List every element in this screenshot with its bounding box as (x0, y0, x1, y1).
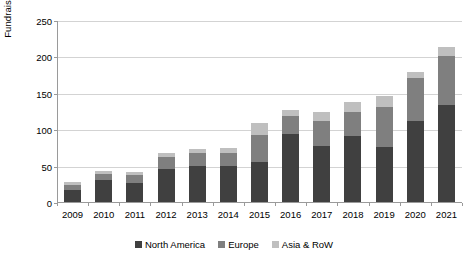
plot-area (57, 21, 462, 203)
plot-frame (57, 21, 462, 203)
x-tick-mark-2018 (337, 203, 338, 206)
x-tick-mark-2010 (88, 203, 89, 206)
legend-label: Asia & RoW (282, 239, 333, 250)
legend-swatch-icon (135, 241, 142, 248)
y-tick-label-50: 50 (18, 162, 52, 173)
x-tick-label-2021: 2021 (429, 209, 463, 220)
legend-swatch-icon (272, 241, 279, 248)
x-tick-mark-2015 (244, 203, 245, 206)
y-tick-label-200: 200 (18, 52, 52, 63)
x-tick-label-2014: 2014 (211, 209, 245, 220)
x-tick-label-2016: 2016 (274, 209, 308, 220)
x-tick-mark-2017 (306, 203, 307, 206)
x-tick-mark-2020 (400, 203, 401, 206)
x-tick-mark-2012 (150, 203, 151, 206)
x-tick-label-2013: 2013 (180, 209, 214, 220)
legend-label: North America (145, 239, 205, 250)
x-tick-label-2009: 2009 (56, 209, 90, 220)
x-tick-label-2012: 2012 (149, 209, 183, 220)
x-tick-mark-end (462, 203, 463, 206)
x-tick-label-2017: 2017 (305, 209, 339, 220)
x-tick-mark-2011 (119, 203, 120, 206)
legend-item-2[interactable]: Asia & RoW (272, 239, 333, 250)
chart-legend: North AmericaEuropeAsia & RoW (0, 239, 468, 250)
x-tick-mark-2013 (182, 203, 183, 206)
x-tick-mark-2021 (431, 203, 432, 206)
x-tick-label-2011: 2011 (118, 209, 152, 220)
x-tick-mark-2019 (369, 203, 370, 206)
x-tick-label-2020: 2020 (398, 209, 432, 220)
legend-label: Europe (228, 239, 259, 250)
chart-container: Fundraising in $B 050100150200250 200920… (0, 0, 468, 270)
x-tick-label-2010: 2010 (87, 209, 121, 220)
y-tick-label-100: 100 (18, 125, 52, 136)
x-tick-mark-2014 (213, 203, 214, 206)
y-tick-label-250: 250 (18, 16, 52, 27)
legend-item-1[interactable]: Europe (218, 239, 259, 250)
legend-swatch-icon (218, 241, 225, 248)
x-tick-label-2019: 2019 (367, 209, 401, 220)
legend-item-0[interactable]: North America (135, 239, 205, 250)
x-tick-mark-2016 (275, 203, 276, 206)
x-tick-label-2015: 2015 (243, 209, 277, 220)
x-tick-label-2018: 2018 (336, 209, 370, 220)
y-tick-label-0: 0 (18, 198, 52, 209)
x-tick-mark-2009 (57, 203, 58, 206)
y-tick-label-150: 150 (18, 89, 52, 100)
